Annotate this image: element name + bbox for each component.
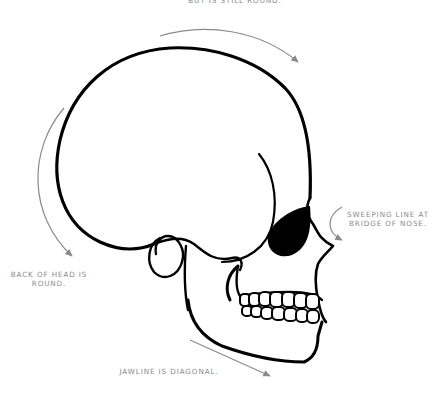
annotation-line: BRIDGE OF NOSE.	[338, 219, 437, 228]
back-of-head-arrow	[38, 108, 72, 256]
skull-diagram	[0, 0, 437, 396]
temporal-line	[222, 154, 275, 262]
annotation-line: SWEEPING LINE AT	[338, 210, 437, 219]
annotation-nose-bridge: SWEEPING LINE AT BRIDGE OF NOSE.	[338, 210, 437, 228]
cheekbone-line	[154, 239, 242, 270]
mastoid-loop	[149, 236, 183, 277]
cranium-top-arrow	[160, 29, 298, 62]
annotation-back-of-head: BACK OF HEAD IS ROUND.	[4, 270, 94, 288]
cranium-outline	[57, 48, 311, 249]
annotation-line: JAWLINE IS DIAGONAL.	[104, 367, 234, 376]
annotation-line: ROUND.	[4, 279, 94, 288]
annotation-line: BUT IS STILL ROUND.	[150, 0, 320, 5]
annotation-cranium-round: BUT IS STILL ROUND.	[150, 0, 320, 5]
annotation-jawline: JAWLINE IS DIAGONAL.	[104, 367, 234, 376]
annotation-line: BACK OF HEAD IS	[4, 270, 94, 279]
